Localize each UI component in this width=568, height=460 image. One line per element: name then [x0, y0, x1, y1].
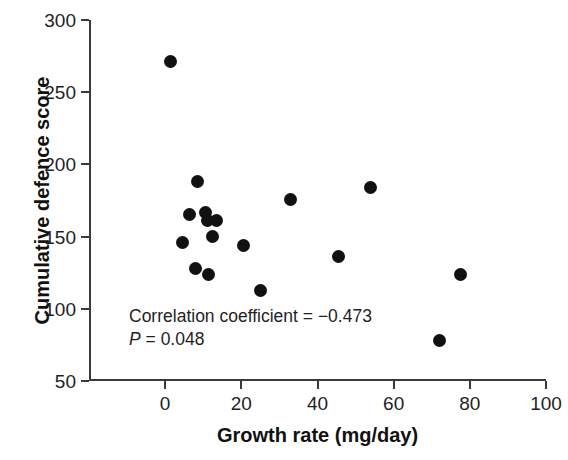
- x-tick-40: [317, 381, 319, 389]
- x-tick-label-40: 40: [307, 394, 328, 413]
- x-tick-label-60: 60: [383, 394, 404, 413]
- x-tick-20: [240, 381, 242, 389]
- data-point: [237, 239, 250, 252]
- data-point: [164, 55, 177, 68]
- data-point: [210, 214, 223, 227]
- p-value-number: = 0.048: [141, 329, 205, 349]
- p-symbol: P: [129, 329, 141, 349]
- y-axis-title: Cumulative defence score: [28, 20, 56, 381]
- plot-area: 50100150200250300 020406080100 Correlati…: [89, 20, 546, 381]
- x-tick-label-100: 100: [530, 394, 562, 413]
- data-point: [433, 334, 446, 347]
- data-point: [364, 181, 377, 194]
- p-value-text: P = 0.048: [129, 328, 372, 351]
- x-axis-title: Growth rate (mg/day): [89, 424, 546, 447]
- data-point: [332, 250, 345, 263]
- data-point: [254, 284, 267, 297]
- x-tick-label-80: 80: [459, 394, 480, 413]
- statistics-annotation: Correlation coefficient = −0.473 P = 0.0…: [129, 305, 372, 351]
- y-tick-label-50: 50: [55, 372, 76, 391]
- data-point: [202, 268, 215, 281]
- data-point: [206, 230, 219, 243]
- x-tick-label-0: 0: [160, 394, 171, 413]
- x-tick-0: [164, 381, 166, 389]
- scatter-plot-figure: 50100150200250300 020406080100 Correlati…: [0, 0, 568, 460]
- data-point: [176, 236, 189, 249]
- data-point: [189, 262, 202, 275]
- x-tick-60: [393, 381, 395, 389]
- y-tick-250: [81, 91, 89, 93]
- correlation-coefficient-text: Correlation coefficient = −0.473: [129, 305, 372, 328]
- y-tick-150: [81, 236, 89, 238]
- data-point: [183, 208, 196, 221]
- data-point: [191, 175, 204, 188]
- x-tick-100: [545, 381, 547, 389]
- y-tick-300: [81, 19, 89, 21]
- y-tick-50: [81, 380, 89, 382]
- data-point: [454, 268, 467, 281]
- x-tick-label-20: 20: [231, 394, 252, 413]
- y-tick-100: [81, 308, 89, 310]
- data-point: [284, 193, 297, 206]
- x-tick-80: [469, 381, 471, 389]
- y-tick-200: [81, 163, 89, 165]
- y-axis-line: [89, 20, 91, 381]
